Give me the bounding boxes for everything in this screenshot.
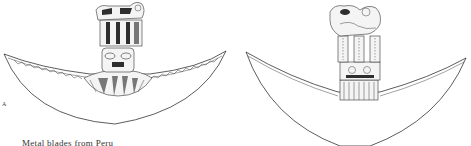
blade-a-illustration	[0, 0, 240, 146]
panel-label-a: A	[2, 101, 6, 107]
figure-panel-a: A	[0, 0, 240, 146]
blade-b-illustration	[230, 0, 471, 146]
figure-panel-b: B	[230, 0, 471, 146]
figure: A B Metal blades from P	[0, 0, 471, 146]
figure-caption: Metal blades from Peru	[22, 138, 113, 146]
